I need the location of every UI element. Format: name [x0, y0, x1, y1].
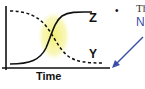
- pointer-arrow: [116, 37, 143, 64]
- y-series-label: Y: [89, 47, 97, 61]
- time-course-plot: [0, 0, 145, 89]
- z-series-label: Z: [89, 10, 97, 25]
- bullet-icon: •: [115, 5, 119, 16]
- bullet-text-line1: Th: [136, 2, 145, 14]
- x-axis-label: Time: [36, 70, 61, 82]
- bullet-text-line2: N: [136, 15, 145, 29]
